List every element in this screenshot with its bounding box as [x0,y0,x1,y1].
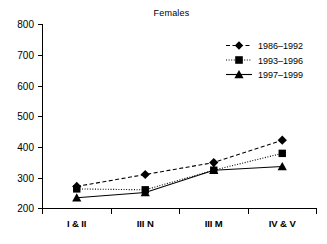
y-tick-label-500: 500 [17,111,34,122]
x-tick-label-iv-and-v: IV & V [269,218,297,229]
legend-label-1993-1996: 1993–1996 [258,56,303,66]
data-point-diamond [141,170,150,179]
legend-entry-1986-1992: 1986–1992 [226,41,303,51]
y-tick-marks [38,25,43,209]
legend-marker-square [235,56,243,64]
data-point-diamond [278,136,287,145]
y-tick-label-400: 400 [17,142,34,153]
chart-plot-area: 200 300 400 500 600 700 800 I & II III N… [0,0,327,244]
chart-container: Females 200 300 400 500 600 700 800 [0,0,327,244]
series-line [77,167,283,198]
x-tick-label-iii-m: III M [205,218,223,229]
data-point-square [73,185,80,192]
legend-marker-diamond [235,41,243,49]
data-point-square [279,150,286,157]
x-tick-label-i-and-ii: I & II [67,218,86,229]
series-1993-1996 [73,150,286,194]
x-tick-label-iii-n: III N [137,218,154,229]
y-tick-label-700: 700 [17,50,34,61]
y-tick-label-200: 200 [17,203,34,214]
x-tick-marks [43,209,317,215]
series-1986-1992 [72,136,287,191]
legend-entry-1997-1999: 1997–1999 [226,70,303,80]
data-point-triangle [278,162,287,170]
legend-label-1986-1992: 1986–1992 [258,41,303,51]
series-line [77,153,283,189]
chart-legend: 1986–1992 1993–1996 1997–1999 [226,41,303,80]
legend-label-1997-1999: 1997–1999 [258,70,303,80]
legend-entry-1993-1996: 1993–1996 [226,56,303,66]
y-tick-label-800: 800 [17,19,34,30]
y-tick-label-300: 300 [17,173,34,184]
series-layer [72,136,287,202]
y-tick-label-600: 600 [17,81,34,92]
